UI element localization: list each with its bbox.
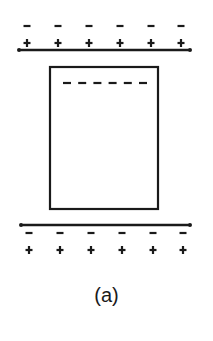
plus-charge-icon xyxy=(180,246,187,254)
dielectric-slab xyxy=(50,67,158,209)
plus-charge-icon xyxy=(148,39,155,47)
plus-charge-icon xyxy=(119,246,126,254)
plus-charge-icon xyxy=(88,246,95,254)
plus-charge-icon xyxy=(24,39,31,47)
plus-charge-icon xyxy=(150,246,157,254)
plus-charge-icon xyxy=(55,39,62,47)
figure-caption: (a) xyxy=(0,284,213,307)
bottom-plate-group xyxy=(19,223,192,254)
plus-charge-icon xyxy=(57,246,64,254)
plus-charge-icon xyxy=(86,39,93,47)
plus-charge-icon xyxy=(26,246,33,254)
top-plate-group xyxy=(17,26,192,52)
plus-charge-icon xyxy=(178,39,185,47)
plus-charge-icon xyxy=(117,39,124,47)
